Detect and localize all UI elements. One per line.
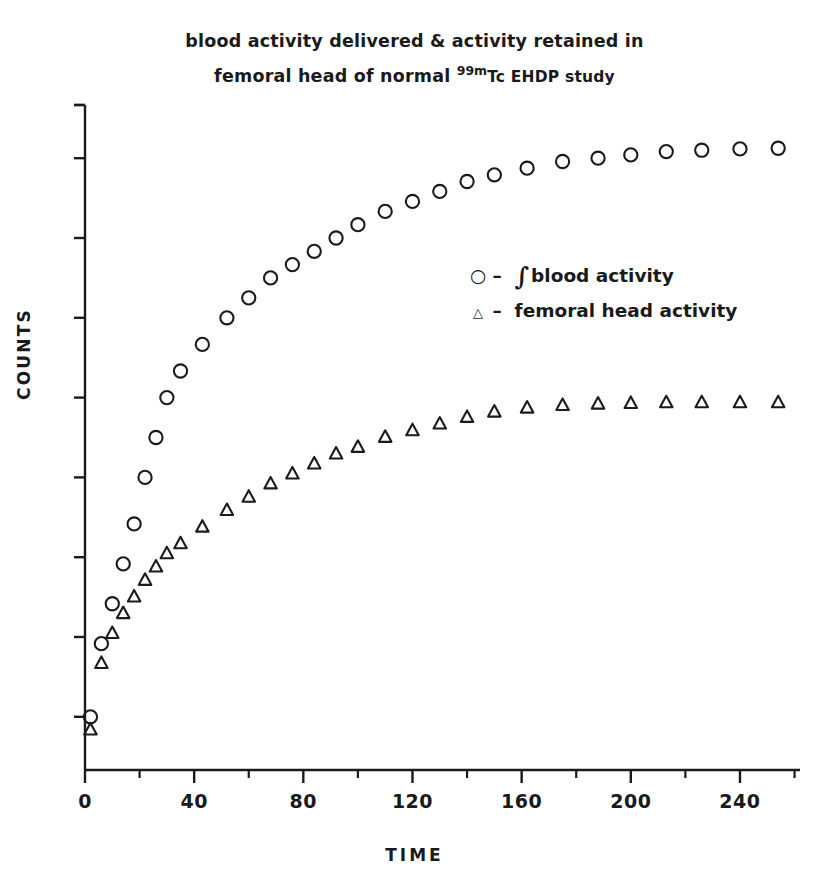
data-point-triangle <box>95 656 108 668</box>
data-point-triangle <box>660 396 673 408</box>
data-point-triangle <box>264 477 277 489</box>
data-point-circle <box>128 517 141 530</box>
data-point-circle <box>149 431 162 444</box>
data-point-circle <box>308 245 321 258</box>
data-point-circle <box>591 152 604 165</box>
data-point-circle <box>695 144 708 157</box>
plot-axes <box>74 105 800 783</box>
data-point-triangle <box>488 405 501 417</box>
data-point-circle <box>379 205 392 218</box>
data-point-triangle <box>128 590 140 602</box>
data-point-triangle <box>308 457 321 469</box>
data-point-triangle <box>117 607 129 619</box>
x-axis-tick-label: 40 <box>159 790 229 812</box>
data-point-triangle <box>139 573 152 585</box>
data-point-triangle <box>196 520 209 532</box>
data-point-triangle <box>772 396 785 408</box>
data-point-circle <box>556 155 569 168</box>
data-point-triangle <box>461 410 474 422</box>
x-axis-tick-label: 240 <box>705 790 775 812</box>
data-point-circle <box>117 557 130 570</box>
data-point-circle <box>772 142 785 155</box>
data-point-triangle <box>286 467 299 479</box>
data-point-triangle <box>521 401 534 413</box>
data-point-circle <box>460 175 473 188</box>
data-point-triangle <box>406 424 419 436</box>
data-point-triangle <box>174 537 187 549</box>
x-axis-tick-label: 80 <box>268 790 338 812</box>
data-point-triangle <box>150 560 163 572</box>
data-point-triangle <box>696 396 709 408</box>
data-point-triangle <box>330 447 343 459</box>
data-point-circle <box>286 258 299 271</box>
x-axis-tick-label: 160 <box>487 790 557 812</box>
data-point-circle <box>160 391 173 404</box>
data-point-circle <box>264 271 277 284</box>
x-axis-tick-label: 200 <box>596 790 666 812</box>
data-point-circle <box>196 338 209 351</box>
data-point-triangle <box>242 490 255 502</box>
data-point-triangle <box>379 430 392 442</box>
data-point-circle <box>138 471 151 484</box>
data-point-triangle <box>556 398 569 410</box>
data-point-circle <box>624 148 637 161</box>
data-point-circle <box>106 597 119 610</box>
data-markers <box>84 142 785 735</box>
data-point-triangle <box>221 504 234 516</box>
scatter-plot-canvas <box>0 0 829 893</box>
data-point-circle <box>660 145 673 158</box>
data-point-triangle <box>106 627 119 639</box>
data-point-circle <box>488 168 501 181</box>
data-point-circle <box>733 142 746 155</box>
data-point-triangle <box>161 547 174 559</box>
data-point-triangle <box>434 417 447 429</box>
x-axis-tick-label: 0 <box>50 790 120 812</box>
data-point-triangle <box>625 396 638 408</box>
data-point-circle <box>520 162 533 175</box>
data-point-triangle <box>734 396 747 408</box>
data-point-circle <box>406 195 419 208</box>
data-point-circle <box>351 218 364 231</box>
x-axis-tick-label: 120 <box>377 790 447 812</box>
data-point-triangle <box>352 440 365 452</box>
data-point-circle <box>242 291 255 304</box>
data-point-circle <box>220 311 233 324</box>
data-point-triangle <box>592 397 605 409</box>
data-point-circle <box>329 231 342 244</box>
data-point-circle <box>433 185 446 198</box>
data-point-circle <box>174 364 187 377</box>
